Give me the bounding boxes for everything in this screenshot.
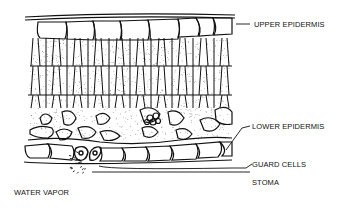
- upper-epidermis-cells: [37, 18, 232, 40]
- label-lower-epidermis: LOWER EPIDERMIS: [252, 122, 324, 131]
- lower-epidermis-cells: [24, 142, 232, 164]
- label-guard-cells: GUARD CELLS: [252, 160, 306, 169]
- guard-cells: [74, 147, 101, 161]
- label-upper-epidermis: UPPER EPIDERMIS: [254, 20, 325, 29]
- spongy-mesophyll: [28, 107, 232, 143]
- leaf-cross-section-illustration: [0, 0, 347, 210]
- label-stoma: STOMA: [252, 178, 279, 187]
- label-water-vapor: WATER VAPOR: [14, 188, 69, 197]
